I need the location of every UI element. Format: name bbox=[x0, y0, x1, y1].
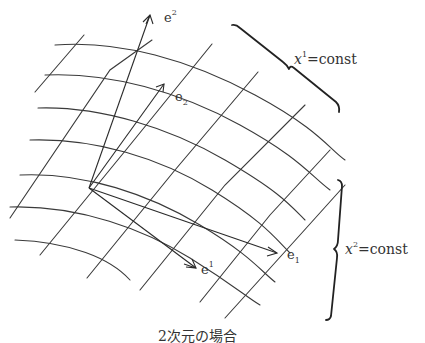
figure-caption: 2次元の場合 bbox=[158, 328, 237, 343]
label-e-upper-2: e2 bbox=[164, 8, 177, 25]
label-x2-const: x2=const bbox=[345, 240, 408, 257]
brace-x2-const: x2=const bbox=[326, 180, 408, 320]
label-e-lower-2: e2 bbox=[175, 89, 188, 107]
coordinate-grid-diagram: e2 e2 e1 e1 x1=const x2=const 2次元の場合 bbox=[0, 0, 425, 343]
vector-labels: e2 e2 e1 e1 bbox=[164, 8, 300, 277]
vector-e-lower-2 bbox=[89, 84, 164, 188]
label-e-lower-1: e1 bbox=[287, 247, 300, 265]
label-e-upper-1: e1 bbox=[201, 260, 214, 277]
basis-vectors bbox=[89, 15, 277, 268]
x2-const-curves bbox=[10, 44, 345, 305]
arrowhead-e-upper-2 bbox=[143, 15, 153, 24]
vector-e-lower-1 bbox=[89, 188, 277, 253]
brace-x1-const: x1=const bbox=[232, 25, 357, 112]
label-x1-const: x1=const bbox=[294, 50, 357, 67]
vector-e-upper-2 bbox=[89, 15, 150, 188]
